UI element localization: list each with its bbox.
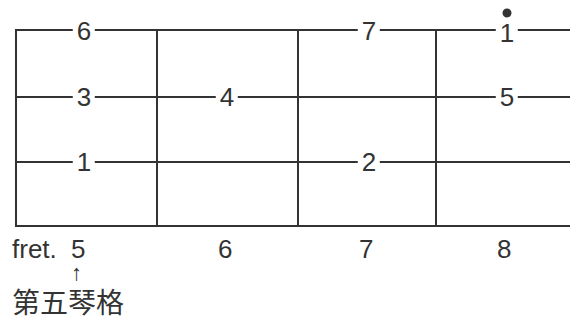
fret-label-8: 8 [497, 236, 511, 262]
fret-label-5: 5 [71, 236, 85, 262]
fret-label-6: 6 [218, 236, 232, 262]
fret-line-1 [156, 29, 158, 227]
high-octave-dot-icon [503, 9, 512, 18]
string-1 [15, 29, 570, 31]
note-s1-f7: 7 [358, 18, 380, 44]
note-s2-f5: 3 [73, 84, 95, 110]
string-2 [15, 96, 570, 98]
string-3 [15, 161, 570, 163]
fret-caption: 第五琴格 [12, 289, 124, 319]
note-s3-f5: 1 [73, 149, 95, 175]
fret-line-3 [435, 29, 437, 227]
fret-label-7: 7 [359, 236, 373, 262]
note-s1-f8: 1 [496, 20, 518, 46]
string-4 [15, 225, 570, 227]
fret-line-left [15, 29, 17, 227]
note-s3-f7: 2 [358, 149, 380, 175]
fret-prefix-label: fret. [12, 236, 57, 262]
note-s2-f8: 5 [496, 84, 518, 110]
note-s2-f6: 4 [216, 84, 238, 110]
fret-line-2 [297, 29, 299, 227]
up-arrow-icon: ↑ [71, 262, 82, 284]
note-s1-f5: 6 [73, 18, 95, 44]
